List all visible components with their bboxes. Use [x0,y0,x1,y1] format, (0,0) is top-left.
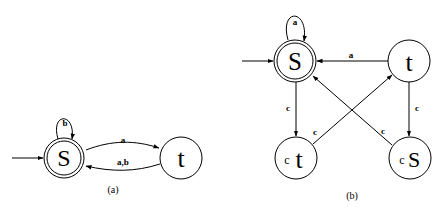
caption-a: (a) [107,184,118,196]
state-label: t [295,145,303,174]
state-prefix: c [399,153,404,167]
state-label: t [405,48,413,77]
state-label: S [408,147,420,172]
edge-label-loop: a [293,17,298,27]
edge-label-cs-to-s: c [381,126,385,136]
state-prefix: c [284,153,289,167]
edge-label-ct-to-t: c [313,127,317,137]
state-label: t [177,144,185,173]
state-ct-b: c t [275,137,317,179]
state-t-a: t [160,137,202,179]
state-label: S [57,145,70,171]
edge-label-s-to-ct: c [286,103,290,113]
caption-b: (b) [346,190,358,202]
state-cs-b: c S [389,137,431,179]
state-t-b: t [388,40,430,82]
edge-label-t-to-s: a,b [117,157,129,167]
automata-figure: S b t a a,b (a) S a t [0,0,440,210]
state-s-a: S [44,138,84,178]
state-s-b: S [274,40,316,82]
diagram-a: S b t a a,b (a) [12,118,202,196]
edge-label-loop: b [62,118,67,128]
state-label: S [288,48,302,75]
diagram-b: S a t c t c S a c c c [242,16,431,202]
edge-label-t-to-s: a [349,50,354,60]
edge-label-s-to-t: a [121,135,126,145]
edge-label-t-to-cs: c [415,103,419,113]
